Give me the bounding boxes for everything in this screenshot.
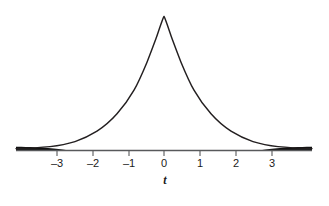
x-axis-title: t: [150, 174, 180, 187]
x-tick-label-3: 3: [259, 157, 285, 170]
x-tick-label-neg-3: –3: [44, 157, 70, 170]
density-curve: [16, 16, 312, 148]
t-distribution-chart: –3 –2 –1 0 1 2 3 t: [0, 0, 329, 206]
x-tick-label-1: 1: [187, 157, 213, 170]
x-tick-label-neg-1: –1: [116, 157, 142, 170]
x-tick-label-0: 0: [151, 157, 177, 170]
x-tick-label-2: 2: [223, 157, 249, 170]
x-tick-label-neg-2: –2: [80, 157, 106, 170]
